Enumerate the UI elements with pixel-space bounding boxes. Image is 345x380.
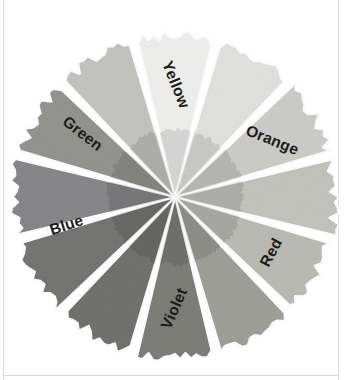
color-wheel-svg: YellowOrangeRedVioletBlueGreen [0,0,345,380]
color-wheel-figure: YellowOrangeRedVioletBlueGreen [0,0,345,380]
color-wheel: YellowOrangeRedVioletBlueGreen [0,0,345,380]
